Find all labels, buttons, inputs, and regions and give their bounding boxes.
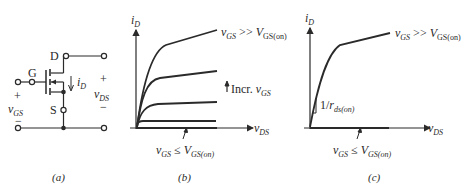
b-curve-3	[137, 102, 217, 127]
mosfet-circuit	[15, 53, 106, 130]
slope-label: 1/rds(on)	[320, 99, 354, 114]
vds-minus-terminal	[101, 125, 106, 130]
gate-label: G	[28, 67, 37, 79]
c-y-axis-label: iD	[305, 12, 314, 27]
b-curve-2	[137, 71, 217, 127]
vds-plus-terminal	[101, 53, 106, 58]
b-cutoff-label: vGS ≤ VGS(on)	[156, 144, 214, 159]
b-curve-4	[137, 121, 216, 124]
source-label: S	[50, 104, 57, 116]
caption-c: (c)	[368, 172, 380, 183]
current-label: iD	[77, 76, 86, 91]
caption-b: (b)	[178, 172, 191, 183]
drain-terminal	[63, 53, 68, 58]
b-y-axis-label: iD	[131, 14, 140, 29]
caption-a: (a)	[52, 172, 65, 183]
c-top-curve-label: vGS >> VGS(on)	[395, 27, 461, 42]
vgs-minus: −	[15, 115, 22, 127]
incr-vgs-label: Incr. vGS	[231, 83, 271, 98]
vgs-plus: +	[14, 90, 21, 102]
vds-plus: +	[100, 73, 107, 85]
vgs-plus-terminal	[15, 79, 20, 84]
c-cutoff-label: vGS ≤ VGS(on)	[333, 144, 391, 159]
increase-arrow-icon	[225, 81, 229, 86]
c-x-axis-label: vDS	[428, 122, 443, 137]
b-curve-max	[137, 30, 217, 127]
gate-terminal	[29, 79, 34, 84]
panel-c-graph	[304, 28, 430, 139]
b-x-axis-label: vDS	[254, 122, 269, 137]
vds-minus: −	[100, 101, 107, 113]
b-top-curve-label: vGS >> VGS(on)	[221, 26, 287, 41]
drain-label: D	[50, 50, 59, 62]
source-terminal	[61, 107, 66, 112]
